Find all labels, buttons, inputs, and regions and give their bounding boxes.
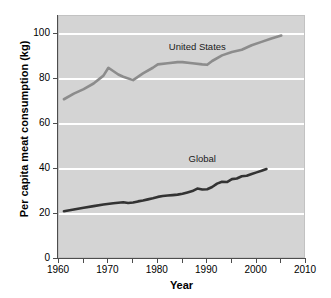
y-axis-label: Per capita meat consumption (kg) <box>16 0 32 258</box>
x-tick-label-1970: 1970 <box>87 264 127 275</box>
y-tick-label-40: 40 <box>16 162 50 173</box>
x-minor-tick-1985 <box>182 259 183 263</box>
x-minor-tick-1995 <box>231 259 232 263</box>
x-tick-2000 <box>256 259 257 263</box>
x-tick-1990 <box>206 259 207 263</box>
x-tick-label-1960: 1960 <box>38 264 78 275</box>
plot-area: United States Global <box>58 15 305 258</box>
x-axis-label: Year <box>58 279 305 291</box>
x-minor-tick-2005 <box>280 259 281 263</box>
y-tick-40 <box>53 168 57 169</box>
y-tick-80 <box>53 78 57 79</box>
y-tick-label-20: 20 <box>16 207 50 218</box>
x-tick-label-1990: 1990 <box>186 264 226 275</box>
y-tick-label-100: 100 <box>16 27 50 38</box>
x-minor-tick-1965 <box>83 259 84 263</box>
x-tick-1970 <box>107 259 108 263</box>
x-tick-label-2000: 2000 <box>236 264 276 275</box>
series-label-global: Global <box>189 153 216 164</box>
x-minor-tick-1975 <box>132 259 133 263</box>
x-tick-1980 <box>157 259 158 263</box>
y-tick-label-0: 0 <box>16 252 50 263</box>
y-tick-0 <box>53 258 57 259</box>
y-tick-20 <box>53 213 57 214</box>
y-tick-label-60: 60 <box>16 117 50 128</box>
chart-figure: Per capita meat consumption (kg) United … <box>0 0 331 298</box>
series-label-united-states: United States <box>169 41 226 52</box>
x-tick-1960 <box>58 259 59 263</box>
x-tick-label-2010: 2010 <box>285 264 325 275</box>
series-lines <box>59 16 306 259</box>
line-global <box>64 169 267 211</box>
x-tick-label-1980: 1980 <box>137 264 177 275</box>
y-tick-100 <box>53 33 57 34</box>
y-tick-60 <box>53 123 57 124</box>
y-tick-label-80: 80 <box>16 72 50 83</box>
y-axis-spine <box>57 15 58 259</box>
x-tick-2010 <box>305 259 306 263</box>
